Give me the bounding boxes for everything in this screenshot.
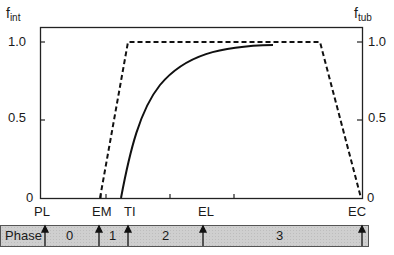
phase-1: 1 bbox=[109, 229, 116, 243]
phase-0: 0 bbox=[66, 229, 73, 243]
phase-label: Phase bbox=[5, 229, 42, 243]
phase-3: 3 bbox=[276, 229, 283, 243]
phase-arrows bbox=[0, 0, 394, 255]
phase-2: 2 bbox=[162, 229, 169, 243]
